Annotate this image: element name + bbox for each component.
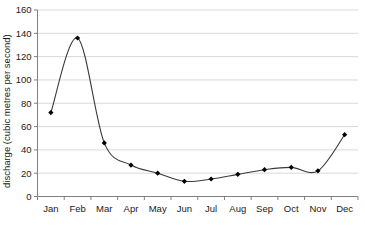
y-tick-label-160: 160 — [16, 4, 32, 15]
x-tick-label-aug: Aug — [229, 203, 246, 214]
y-tick-label-80: 80 — [21, 98, 32, 109]
y-tick-label-20: 20 — [21, 168, 32, 179]
x-tick-label-sep: Sep — [256, 203, 273, 214]
x-tick-label-feb: Feb — [69, 203, 85, 214]
y-tick-label-0: 0 — [26, 191, 31, 202]
y-tick-label-140: 140 — [16, 28, 32, 39]
x-tick-label-mar: Mar — [96, 203, 112, 214]
y-tick-label-120: 120 — [16, 51, 32, 62]
x-tick-label-jul: Jul — [205, 203, 217, 214]
x-tick-label-may: May — [149, 203, 167, 214]
y-tick-label-60: 60 — [21, 121, 32, 132]
x-tick-label-dec: Dec — [336, 203, 353, 214]
discharge-line-chart: 020406080100120140160 JanFebMarAprMayJun… — [0, 0, 365, 231]
x-tick-label-oct: Oct — [284, 203, 299, 214]
y-axis-title: discharge (cubic metres per second) — [1, 34, 12, 188]
x-tick-label-apr: Apr — [124, 203, 139, 214]
x-tick-label-nov: Nov — [309, 203, 326, 214]
y-tick-label-40: 40 — [21, 144, 32, 155]
x-tick-label-jun: Jun — [177, 203, 192, 214]
chart-canvas: 020406080100120140160 JanFebMarAprMayJun… — [0, 0, 365, 231]
y-tick-label-100: 100 — [16, 74, 32, 85]
x-tick-label-jan: Jan — [43, 203, 58, 214]
